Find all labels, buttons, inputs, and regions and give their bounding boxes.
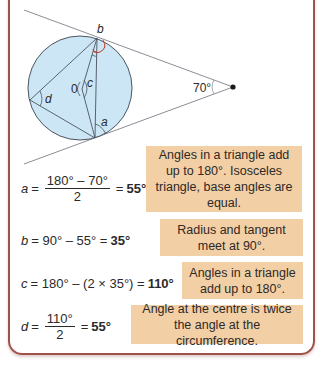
label-d: d bbox=[45, 92, 52, 106]
result-c: 110° bbox=[148, 276, 174, 291]
label-external-angle: 70° bbox=[193, 81, 211, 95]
label-centre: 0 bbox=[71, 82, 78, 96]
note-d: Angle at the centre is twice the angle a… bbox=[131, 305, 303, 344]
expression-c: = 180° – (2 × 35°) = bbox=[31, 276, 145, 291]
result-a: 55° bbox=[126, 181, 146, 196]
expression-b: = 90° – 55° = bbox=[31, 233, 107, 248]
variable-b: b bbox=[21, 233, 28, 248]
fraction-a: 180° – 70° 2 bbox=[45, 173, 110, 204]
note-b: Radius and tangent meet at 90°. bbox=[160, 219, 303, 256]
formula-a: a = 180° – 70° 2 = 55° bbox=[21, 172, 146, 204]
formula-c: c = 180° – (2 × 35°) = 110° bbox=[21, 274, 174, 292]
result-d: 55° bbox=[91, 319, 111, 334]
angle-arc-70 bbox=[212, 80, 214, 94]
equals-sign: = bbox=[116, 181, 124, 196]
equals-sign: = bbox=[81, 319, 89, 334]
note-c-text: Angles in a triangle add up to 180°. bbox=[188, 265, 297, 297]
equals-sign: = bbox=[31, 181, 39, 196]
label-c: c bbox=[87, 76, 93, 90]
note-a: Angles in a triangle add up to 180°. Iso… bbox=[146, 146, 302, 212]
variable-a: a bbox=[21, 181, 28, 196]
note-a-text: Angles in a triangle add up to 180°. Iso… bbox=[152, 147, 296, 211]
label-a: a bbox=[101, 115, 108, 129]
formula-d: d = 110° 2 = 55° bbox=[21, 310, 111, 342]
numerator: 110° bbox=[45, 311, 75, 327]
note-c: Angles in a triangle add up to 180°. bbox=[182, 262, 303, 299]
external-point bbox=[230, 84, 235, 89]
formula-b: b = 90° – 55° = 35° bbox=[21, 231, 130, 249]
variable-c: c bbox=[21, 276, 28, 291]
result-b: 35° bbox=[110, 233, 130, 248]
denominator: 2 bbox=[56, 327, 63, 342]
note-b-text: Radius and tangent meet at 90°. bbox=[166, 222, 297, 254]
denominator: 2 bbox=[74, 189, 81, 204]
equals-sign: = bbox=[31, 319, 39, 334]
variable-d: d bbox=[21, 319, 28, 334]
fraction-d: 110° 2 bbox=[45, 311, 75, 342]
numerator: 180° – 70° bbox=[45, 173, 110, 189]
label-b: b bbox=[97, 22, 104, 36]
note-d-text: Angle at the centre is twice the angle a… bbox=[137, 301, 297, 349]
